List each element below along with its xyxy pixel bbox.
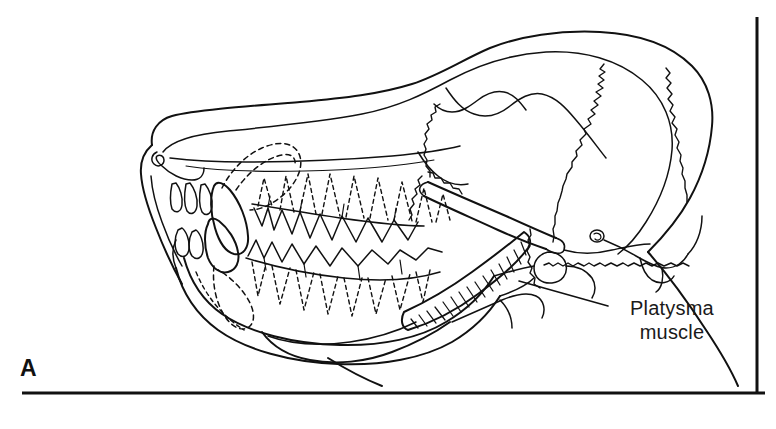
lower-root-p5 (344, 278, 362, 316)
lower-root-p4 (320, 274, 338, 314)
coronal-suture (553, 64, 605, 242)
mandible (173, 240, 534, 364)
retroarticular-process (566, 266, 595, 298)
skull-illustration (0, 0, 776, 429)
meatus-inner-mark (594, 233, 601, 240)
lower-canine-root (214, 266, 254, 329)
temporal-line (446, 88, 606, 158)
panel-letter-a: A (20, 357, 37, 380)
zygomatic-root-suture (428, 172, 462, 194)
lower-root-p3 (296, 270, 314, 310)
tooth-roots-dashed (196, 143, 450, 330)
dorsal-skin-line (152, 32, 713, 252)
maxillary-teeth (171, 183, 425, 255)
frontal-bone-step (434, 91, 526, 112)
upper-root-p1 (258, 178, 272, 206)
upper-incisor-2 (185, 183, 198, 213)
maxilla-line (170, 146, 460, 162)
lambdoid-suture (666, 68, 687, 202)
lower-incisor-2 (189, 230, 203, 258)
upper-root-m1 (370, 178, 388, 220)
zygomatic-arch (420, 182, 650, 253)
upper-root-p2 (280, 176, 294, 212)
hyoid-drop-contour (328, 358, 382, 386)
frontal-suture (424, 104, 440, 177)
lower-root-m1 (368, 278, 386, 314)
mandibular-condyle (534, 252, 566, 283)
cranial-sutures (409, 64, 689, 288)
platysma-muscle-label: Platysma muscle (612, 296, 732, 344)
figure-panel-a: Platysma muscle A (0, 0, 776, 429)
temporomandibular-joint (534, 216, 702, 298)
upper-root-p5 (346, 176, 364, 218)
temporal-and-orbital-region (418, 88, 606, 185)
upper-incisor-1 (171, 183, 183, 212)
upper-root-p3 (300, 174, 316, 214)
upper-root-p4 (322, 174, 340, 216)
mandibular-canal-dashed (196, 272, 244, 330)
lower-root-p1 (252, 262, 266, 296)
upper-root-m2 (394, 182, 412, 221)
platysma-label-line2: muscle (612, 320, 732, 344)
paracondylar-process (656, 268, 663, 292)
platysma-label-line1: Platysma (612, 296, 732, 320)
occiput-caudal-edge (688, 216, 702, 254)
zygomatic-arch-caudal-end (546, 238, 565, 253)
upper-canine-root (222, 143, 301, 210)
lower-alveolar-line (246, 258, 440, 280)
upper-root-m3 (416, 188, 432, 222)
upper-canine-root-inner (236, 154, 295, 190)
nasal-aperture (152, 152, 204, 180)
arch-caudal-extension (564, 244, 650, 253)
lower-root-p2 (272, 266, 290, 304)
lower-incisor-1 (175, 228, 189, 256)
ventral-neck-line-2 (500, 300, 512, 328)
orbital-rim-suture (409, 176, 422, 220)
lower-cheek-teeth-crowns (248, 240, 442, 266)
